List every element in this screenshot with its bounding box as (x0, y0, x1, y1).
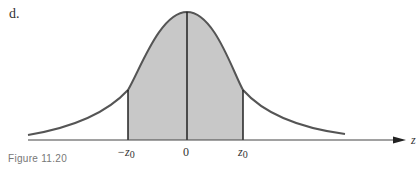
axis-variable-label: z (410, 133, 416, 147)
tick-pos-z0: z0 (237, 145, 248, 160)
tick-zero: 0 (183, 145, 189, 159)
shaded-area (128, 12, 243, 140)
tick-neg-z0: −z0 (117, 145, 135, 160)
figure-caption: Figure 11.20 (8, 153, 67, 164)
axis-arrow-icon (393, 137, 406, 144)
normal-curve-diagram: z −z0 0 z0 (0, 0, 419, 170)
